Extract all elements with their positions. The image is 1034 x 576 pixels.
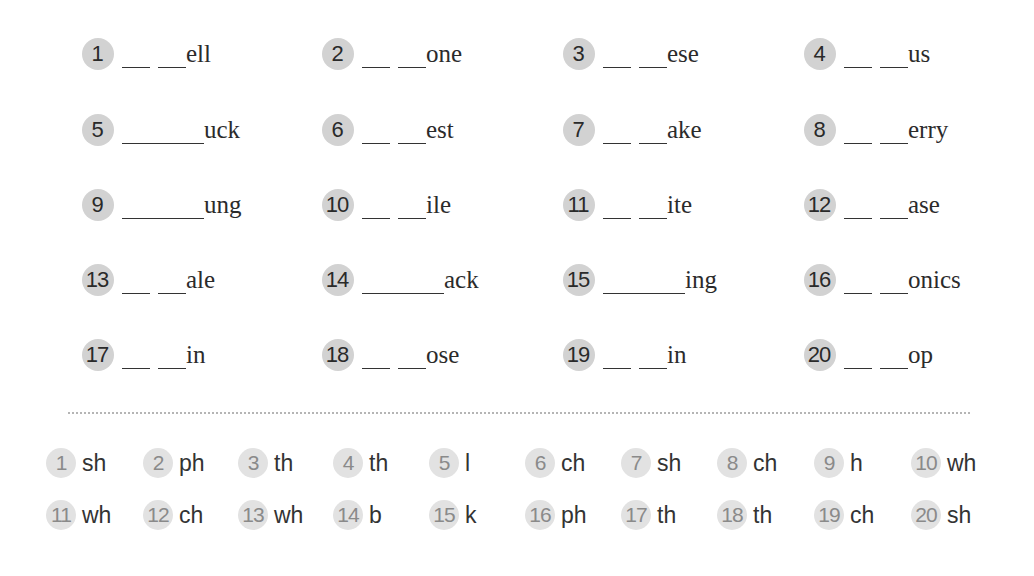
- exercise-item: 15 ing: [563, 263, 717, 297]
- answer-blank: [603, 266, 685, 294]
- word-ending: ake: [667, 116, 702, 144]
- number-badge: 17: [82, 339, 114, 371]
- answer-number-badge: 7: [621, 448, 651, 478]
- answer-item: 2 ph: [143, 447, 205, 479]
- exercise-item: 20 op: [804, 338, 933, 372]
- answer-value: ch: [850, 502, 874, 529]
- exercise-item: 16 onics: [804, 263, 961, 297]
- number-badge: 7: [563, 114, 595, 146]
- answer-blank: [362, 116, 426, 144]
- answer-item: 13 wh: [238, 499, 303, 531]
- number-badge: 10: [322, 189, 354, 221]
- answer-item: 19 ch: [814, 499, 874, 531]
- word-ending: in: [186, 341, 205, 369]
- number-badge: 6: [322, 114, 354, 146]
- answer-number-badge: 6: [525, 448, 555, 478]
- answer-number-badge: 4: [333, 448, 363, 478]
- exercise-item: 8 erry: [804, 113, 948, 147]
- exercise-item: 13 ale: [82, 263, 215, 297]
- answer-blank: [122, 191, 204, 219]
- word-ending: in: [667, 341, 686, 369]
- answer-item: 1 sh: [46, 447, 106, 479]
- answer-value: sh: [82, 450, 106, 477]
- word-ending: ell: [186, 40, 211, 68]
- answer-number-badge: 5: [429, 448, 459, 478]
- exercise-item: 1 ell: [82, 37, 211, 71]
- answer-number-badge: 11: [46, 500, 76, 530]
- exercise-item: 10 ile: [322, 188, 451, 222]
- number-badge: 12: [804, 189, 836, 221]
- word-ending: ite: [667, 191, 692, 219]
- answer-item: 5 l: [429, 447, 470, 479]
- number-badge: 16: [804, 264, 836, 296]
- number-badge: 13: [82, 264, 114, 296]
- word-ending: onics: [908, 266, 961, 294]
- word-ending: ose: [426, 341, 459, 369]
- answer-item: 16 ph: [525, 499, 587, 531]
- exercise-item: 6 est: [322, 113, 454, 147]
- word-ending: est: [426, 116, 454, 144]
- answer-number-badge: 19: [814, 500, 844, 530]
- exercise-item: 4 us: [804, 37, 930, 71]
- answer-value: sh: [947, 502, 971, 529]
- answer-number-badge: 14: [333, 500, 363, 530]
- word-ending: ale: [186, 266, 215, 294]
- answer-number-badge: 2: [143, 448, 173, 478]
- number-badge: 14: [322, 264, 354, 296]
- word-ending: ese: [667, 40, 699, 68]
- answer-blank: [603, 341, 667, 369]
- answer-blank: [122, 341, 186, 369]
- word-ending: ile: [426, 191, 451, 219]
- number-badge: 3: [563, 38, 595, 70]
- answer-value: h: [850, 450, 863, 477]
- answer-value: wh: [947, 450, 976, 477]
- exercise-item: 7 ake: [563, 113, 702, 147]
- word-ending: ase: [908, 191, 940, 219]
- exercise-item: 17 in: [82, 338, 205, 372]
- answer-number-badge: 17: [621, 500, 651, 530]
- answer-value: th: [657, 502, 676, 529]
- exercise-item: 19 in: [563, 338, 686, 372]
- answer-number-badge: 18: [717, 500, 747, 530]
- word-ending: ung: [204, 191, 242, 219]
- answer-number-badge: 12: [143, 500, 173, 530]
- answer-number-badge: 15: [429, 500, 459, 530]
- answer-blank: [362, 266, 444, 294]
- answer-blank: [362, 191, 426, 219]
- answer-blank: [603, 191, 667, 219]
- exercise-item: 9 ung: [82, 188, 242, 222]
- answer-value: b: [369, 502, 382, 529]
- answer-value: k: [465, 502, 477, 529]
- answer-value: wh: [82, 502, 111, 529]
- answer-item: 10 wh: [911, 447, 976, 479]
- answer-item: 8 ch: [717, 447, 777, 479]
- exercise-item: 18 ose: [322, 338, 459, 372]
- exercise-item: 3 ese: [563, 37, 699, 71]
- answer-item: 20 sh: [911, 499, 971, 531]
- exercise-item: 14 ack: [322, 263, 479, 297]
- word-ending: op: [908, 341, 933, 369]
- answer-blank: [122, 116, 204, 144]
- number-badge: 18: [322, 339, 354, 371]
- answer-number-badge: 8: [717, 448, 747, 478]
- answer-blank: [844, 341, 908, 369]
- answer-blank: [362, 40, 426, 68]
- answer-blank: [844, 116, 908, 144]
- answer-number-badge: 3: [238, 448, 268, 478]
- word-ending: ing: [685, 266, 717, 294]
- answer-value: ch: [179, 502, 203, 529]
- answer-value: ph: [179, 450, 205, 477]
- answer-item: 4 th: [333, 447, 388, 479]
- number-badge: 8: [804, 114, 836, 146]
- answer-item: 9 h: [814, 447, 863, 479]
- word-ending: erry: [908, 116, 948, 144]
- answer-value: ch: [753, 450, 777, 477]
- number-badge: 1: [82, 38, 114, 70]
- dotted-divider: [68, 412, 970, 414]
- answer-blank: [844, 266, 908, 294]
- number-badge: 5: [82, 114, 114, 146]
- answer-blank: [122, 266, 186, 294]
- answer-number-badge: 1: [46, 448, 76, 478]
- number-badge: 19: [563, 339, 595, 371]
- exercise-item: 12 ase: [804, 188, 940, 222]
